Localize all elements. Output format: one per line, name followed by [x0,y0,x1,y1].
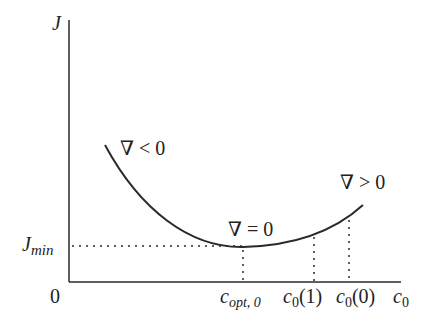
gradient-positive-label: ∇ > 0 [340,171,385,193]
x-axis-label: c0 [393,285,409,310]
c0-0-label: c0(0) [336,285,375,310]
origin-label: 0 [50,285,60,307]
y-axis-label: J [52,12,62,34]
c0-1-label: c0(1) [283,285,322,310]
copt-label: copt, 0 [220,285,261,310]
cost-function-diagram: J 0 Jmin ∇ < 0 ∇ = 0 ∇ > 0 copt, 0 c0(1)… [0,0,434,329]
jmin-label: Jmin [22,233,53,258]
gradient-negative-label: ∇ < 0 [120,137,165,159]
gradient-zero-label: ∇ = 0 [228,218,273,240]
